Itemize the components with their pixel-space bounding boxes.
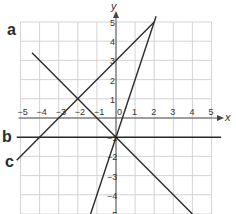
- x-tick-label: −4: [37, 107, 47, 117]
- y-tick-label: 1: [110, 95, 115, 105]
- x-axis-label: x: [224, 111, 231, 123]
- x-axis-arrow-icon: [217, 115, 224, 121]
- x-tick-label: 4: [189, 107, 194, 117]
- x-tick-label: 2: [151, 107, 156, 117]
- x-tick-label: 0: [117, 107, 122, 117]
- y-tick-label: 5: [110, 18, 115, 28]
- label-line-b: b: [2, 128, 12, 145]
- x-tick-label: −2: [75, 107, 85, 117]
- x-tick-label: −1: [94, 107, 104, 117]
- label-line-c: c: [5, 153, 14, 170]
- y-tick-label: 4: [110, 37, 115, 47]
- y-tick-label: −4: [107, 191, 117, 201]
- x-tick-label: −5: [18, 107, 28, 117]
- x-tick-label: 1: [132, 107, 137, 117]
- y-tick-label: −5: [107, 210, 117, 214]
- y-tick-label: −3: [107, 172, 117, 182]
- y-tick-label: 2: [110, 76, 115, 86]
- coordinate-plane: −5−4−3−2−101234554321−1−2−3−4−5 a b c x …: [0, 0, 236, 214]
- label-line-a: a: [7, 21, 16, 38]
- x-tick-label: 3: [170, 107, 175, 117]
- line-c: [17, 22, 155, 160]
- y-axis-label: y: [110, 0, 118, 12]
- x-tick-label: 5: [209, 107, 214, 117]
- y-axis-arrow-icon: [113, 11, 119, 18]
